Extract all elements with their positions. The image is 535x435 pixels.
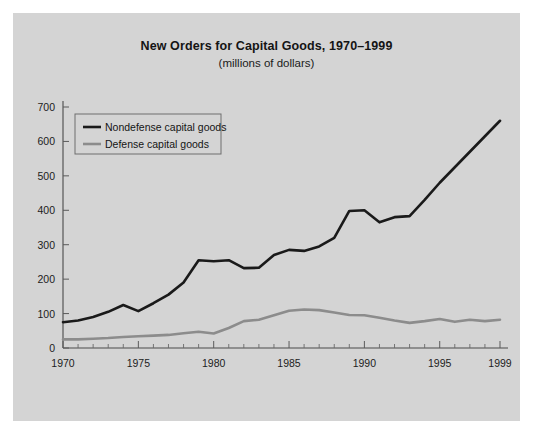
- x-axis-tick-label: 1990: [353, 357, 377, 369]
- y-axis-tick-label: 400: [37, 204, 55, 216]
- figure-panel: New Orders for Capital Goods, 1970–1999 …: [13, 13, 520, 421]
- x-axis-tick-label: 1970: [51, 357, 75, 369]
- y-axis-tick-label: 300: [37, 239, 55, 251]
- x-axis-tick-label: 1995: [428, 357, 452, 369]
- y-axis-tick-label: 600: [37, 135, 55, 147]
- legend-label-nondefense: Nondefense capital goods: [105, 121, 226, 133]
- legend-label-defense: Defense capital goods: [105, 138, 209, 150]
- x-axis-tick-label: 1975: [127, 357, 151, 369]
- series-line-defense: [63, 309, 500, 339]
- x-axis-tick-label: 1985: [277, 357, 301, 369]
- y-axis-tick-label: 500: [37, 170, 55, 182]
- y-axis-tick-label: 700: [37, 101, 55, 113]
- x-axis-tick-labels: 1970197519801985199019951999: [51, 357, 512, 369]
- x-axis-tick-label: 1999: [488, 357, 512, 369]
- y-axis-tick-label: 0: [49, 342, 55, 354]
- y-axis-tick-labels: 0100200300400500600700: [37, 101, 55, 354]
- x-axis-tick-label: 1980: [202, 357, 226, 369]
- y-axis-tick-label: 200: [37, 273, 55, 285]
- chart-legend: Nondefense capital goodsDefense capital …: [75, 114, 226, 154]
- line-chart: 0100200300400500600700 19701975198019851…: [13, 13, 520, 421]
- y-axis-tick-label: 100: [37, 308, 55, 320]
